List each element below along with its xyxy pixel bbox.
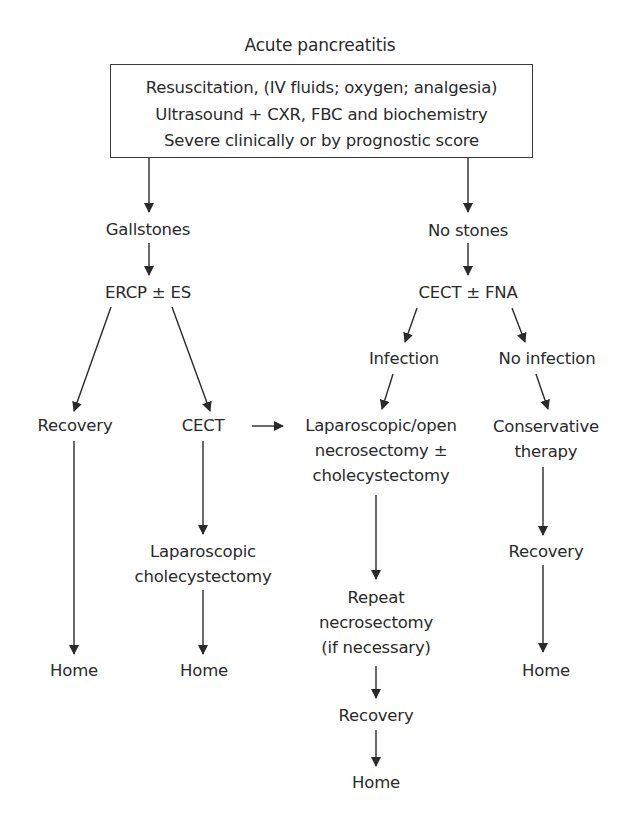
node-repeat-necrosectomy: Repeat necrosectomy (if necessary): [319, 585, 433, 660]
node-home-right: Home: [522, 658, 570, 683]
node-repeat-line-1: Repeat: [319, 585, 433, 610]
node-home-left: Home: [50, 658, 98, 683]
node-lap-chole-line-2: cholecystectomy: [135, 564, 272, 589]
node-recovery-middle: Recovery: [339, 703, 414, 728]
node-lap-chole-line-1: Laparoscopic: [135, 539, 272, 564]
node-conservative-therapy: Conservative therapy: [493, 414, 599, 464]
arrow-infection-to-necrosectomy: [382, 374, 393, 409]
node-necrosectomy: Laparoscopic/open necrosectomy ± cholecy…: [305, 413, 457, 488]
node-repeat-line-3: (if necessary): [319, 635, 433, 660]
node-home-bottom: Home: [352, 770, 400, 795]
diagram-title: Acute pancreatitis: [245, 33, 396, 58]
box-line-resuscitation: Resuscitation, (IV fluids; oxygen; analg…: [111, 78, 532, 97]
node-recovery-left: Recovery: [38, 413, 113, 438]
box-line-investigations: Ultrasound + CXR, FBC and biochemistry: [111, 105, 532, 124]
arrow-cect-fna-to-infection: [405, 308, 417, 342]
node-gallstones: Gallstones: [106, 217, 190, 242]
node-no-stones: No stones: [428, 218, 508, 243]
arrow-ercp-to-recovery: [74, 307, 111, 411]
arrow-ercp-to-cect: [172, 307, 210, 411]
node-no-infection: No infection: [499, 346, 596, 371]
node-conservative-line-1: Conservative: [493, 414, 599, 439]
node-necrosectomy-line-3: cholecystectomy: [305, 463, 457, 488]
node-ercp: ERCP ± ES: [105, 280, 191, 305]
arrow-cect-fna-to-no-infection: [512, 308, 525, 342]
node-necrosectomy-line-1: Laparoscopic/open: [305, 413, 457, 438]
node-recovery-right: Recovery: [509, 539, 584, 564]
node-cect: CECT: [182, 413, 225, 438]
node-lap-cholecystectomy: Laparoscopic cholecystectomy: [135, 539, 272, 589]
initial-management-box: Resuscitation, (IV fluids; oxygen; analg…: [110, 64, 533, 158]
box-line-severity: Severe clinically or by prognostic score: [111, 131, 532, 150]
node-cect-fna: CECT ± FNA: [419, 280, 518, 305]
node-necrosectomy-line-2: necrosectomy ±: [305, 438, 457, 463]
node-conservative-line-2: therapy: [493, 439, 599, 464]
node-infection: Infection: [369, 346, 439, 371]
node-home-middle: Home: [180, 658, 228, 683]
arrow-no-infection-to-conservative: [536, 374, 548, 409]
node-repeat-line-2: necrosectomy: [319, 610, 433, 635]
